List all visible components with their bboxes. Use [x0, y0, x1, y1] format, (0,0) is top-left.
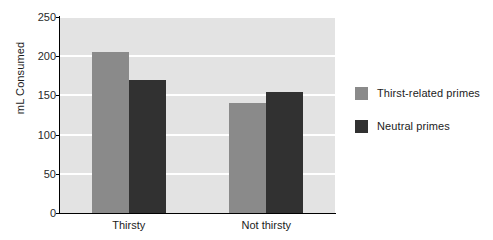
y-axis-tick-label: 250 — [22, 11, 56, 23]
y-axis-tick-label: 0 — [22, 207, 56, 219]
legend-label: Neutral primes — [377, 120, 450, 132]
y-axis-tick-labels: 050100150200250 — [22, 0, 56, 240]
x-axis-tick-label: Thirsty — [112, 219, 145, 231]
legend-label: Thirst-related primes — [377, 87, 480, 99]
bar-chart-figure: mL Consumed 050100150200250 ThirstyNot t… — [0, 0, 493, 240]
legend-item[interactable]: Neutral primes — [355, 119, 480, 133]
chart-legend: Thirst-related primesNeutral primes — [355, 86, 480, 152]
y-axis-tick-mark — [56, 213, 60, 214]
bar-thirsty-neutral-primes[interactable] — [129, 80, 166, 213]
y-axis-tick-mark — [56, 95, 60, 96]
gridline — [60, 16, 335, 18]
y-axis-tick-mark — [56, 56, 60, 57]
y-axis-tick-label: 200 — [22, 50, 56, 62]
y-axis-tick-mark — [56, 17, 60, 18]
y-axis-line — [59, 16, 60, 214]
y-axis-tick-label: 50 — [22, 168, 56, 180]
y-axis-tick-label: 150 — [22, 89, 56, 101]
legend-item[interactable]: Thirst-related primes — [355, 86, 480, 100]
bar-not-thirsty-thirst-related-primes[interactable] — [229, 103, 266, 213]
bar-thirsty-thirst-related-primes[interactable] — [92, 52, 129, 214]
x-axis-line — [59, 213, 336, 214]
legend-swatch-icon — [355, 120, 368, 133]
y-axis-tick-mark — [56, 174, 60, 175]
plot-area — [60, 17, 335, 213]
x-axis-tick-label: Not thirsty — [241, 219, 291, 231]
y-axis-tick-mark — [56, 135, 60, 136]
bar-not-thirsty-neutral-primes[interactable] — [266, 92, 303, 213]
legend-swatch-icon — [355, 87, 368, 100]
y-axis-tick-label: 100 — [22, 129, 56, 141]
